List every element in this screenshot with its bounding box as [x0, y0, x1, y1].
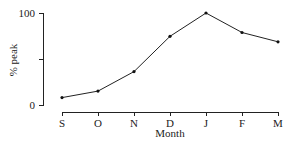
x-tick-label: F: [239, 117, 245, 129]
y-tick-label-100: 100: [19, 7, 36, 19]
x-tick-label: J: [204, 117, 209, 129]
y-axis-label: % peak: [7, 43, 19, 76]
x-tick-label: S: [59, 117, 65, 129]
data-point: [276, 40, 279, 43]
data-point: [204, 11, 207, 14]
line-chart: 100 0 % peak SONDJFM Month: [0, 0, 287, 142]
x-tick-label: N: [130, 117, 138, 129]
data-point: [96, 90, 99, 93]
data-point: [240, 31, 243, 34]
data-series: [60, 11, 279, 99]
x-tick-label: O: [94, 117, 102, 129]
data-point: [132, 70, 135, 73]
data-point: [168, 35, 171, 38]
y-tick-label-0: 0: [30, 99, 36, 111]
x-tick-label: M: [273, 117, 283, 129]
y-axis: 100 0 % peak: [7, 7, 44, 111]
x-axis-label: Month: [155, 127, 185, 139]
x-axis: SONDJFM Month: [59, 112, 283, 139]
data-point: [60, 96, 63, 99]
